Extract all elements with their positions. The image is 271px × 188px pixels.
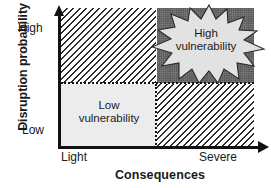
high-vulnerability-line2: vulnerability xyxy=(168,40,244,53)
x-axis-title: Consequences xyxy=(60,168,260,182)
x-tick-light: Light xyxy=(61,150,87,164)
y-axis-title: Disruption probability xyxy=(16,0,30,142)
high-vulnerability-line1: High xyxy=(168,27,244,40)
quadrant-label-high-vulnerability: High vulnerability xyxy=(168,27,244,53)
x-axis-line xyxy=(58,146,261,149)
low-vulnerability-line2: vulnerability xyxy=(72,112,146,125)
vulnerability-matrix-chart: Low vulnerability High vulnerability Hig… xyxy=(0,0,271,188)
quadrant-label-low-vulnerability: Low vulnerability xyxy=(72,99,146,125)
x-axis-arrow-icon xyxy=(258,141,269,153)
quadrant-bottom-right-hatched xyxy=(157,84,254,148)
quadrant-top-left-hatched xyxy=(61,8,156,83)
y-axis-arrow-icon xyxy=(54,5,64,16)
x-tick-severe: Severe xyxy=(199,150,237,164)
divider-vertical-dotted xyxy=(155,84,157,148)
low-vulnerability-line1: Low xyxy=(72,99,146,112)
y-axis-line xyxy=(58,14,61,148)
